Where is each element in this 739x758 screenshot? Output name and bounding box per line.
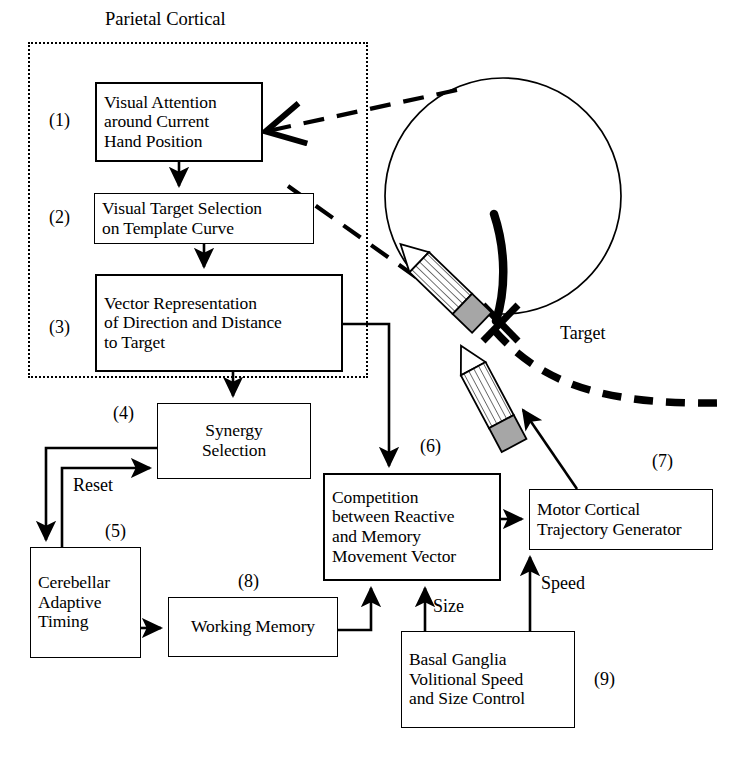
box-tag-9: (9) xyxy=(594,670,615,688)
pencil-upper xyxy=(391,234,492,333)
box-basal-ganglia[interactable]: Basal Ganglia Volitional Speed and Size … xyxy=(401,631,575,728)
box-synergy-selection-label: Synergy Selection xyxy=(202,421,266,460)
box-tag-6: (6) xyxy=(420,437,441,455)
box-tag-4: (4) xyxy=(113,404,134,422)
box-visual-attention-label: Visual Attention around Current Hand Pos… xyxy=(104,93,217,152)
box-tag-1: (1) xyxy=(49,111,70,129)
pencil-lower xyxy=(449,339,527,452)
region-title-parietal-cortical: Parietal Cortical xyxy=(105,10,226,29)
edge-label-speed: Speed xyxy=(541,574,585,592)
box-competition-label: Competition between Reactive and Memory … xyxy=(332,488,456,566)
box-working-memory-label: Working Memory xyxy=(191,617,315,637)
box-cerebellar-adaptive-timing-label: Cerebellar Adaptive Timing xyxy=(38,573,110,632)
drawn-stroke-arc xyxy=(494,214,503,321)
box-visual-target-selection[interactable]: Visual Target Selection on Template Curv… xyxy=(94,193,314,244)
edge-label-reset: Reset xyxy=(73,476,113,494)
box-vector-representation-label: Vector Representation of Direction and D… xyxy=(104,294,282,353)
box-tag-3: (3) xyxy=(49,318,70,336)
illustration-target-label: Target xyxy=(560,324,605,342)
box-working-memory[interactable]: Working Memory xyxy=(168,597,338,657)
box-competition[interactable]: Competition between Reactive and Memory … xyxy=(323,473,501,581)
connector-working-memory-to-competition xyxy=(338,588,371,630)
box-basal-ganglia-label: Basal Ganglia Volitional Speed and Size … xyxy=(409,650,525,709)
edge-label-size: Size xyxy=(433,597,464,615)
connector-motor-to-effector xyxy=(523,410,577,489)
box-motor-cortical[interactable]: Motor Cortical Trajectory Generator xyxy=(529,489,713,550)
box-synergy-selection[interactable]: Synergy Selection xyxy=(157,403,311,479)
movement-trajectory-dashed xyxy=(494,330,720,403)
box-visual-attention[interactable]: Visual Attention around Current Hand Pos… xyxy=(95,82,263,162)
box-motor-cortical-label: Motor Cortical Trajectory Generator xyxy=(537,500,682,539)
box-vector-representation[interactable]: Vector Representation of Direction and D… xyxy=(95,274,343,372)
box-tag-7: (7) xyxy=(652,452,673,470)
box-tag-2: (2) xyxy=(49,208,70,226)
box-tag-5: (5) xyxy=(105,522,126,540)
box-visual-target-selection-label: Visual Target Selection on Template Curv… xyxy=(102,199,262,238)
diagram-canvas: Parietal Cortical (1) Visual Attention a… xyxy=(0,0,739,758)
box-tag-8: (8) xyxy=(238,572,259,590)
box-cerebellar-adaptive-timing[interactable]: Cerebellar Adaptive Timing xyxy=(30,547,141,658)
